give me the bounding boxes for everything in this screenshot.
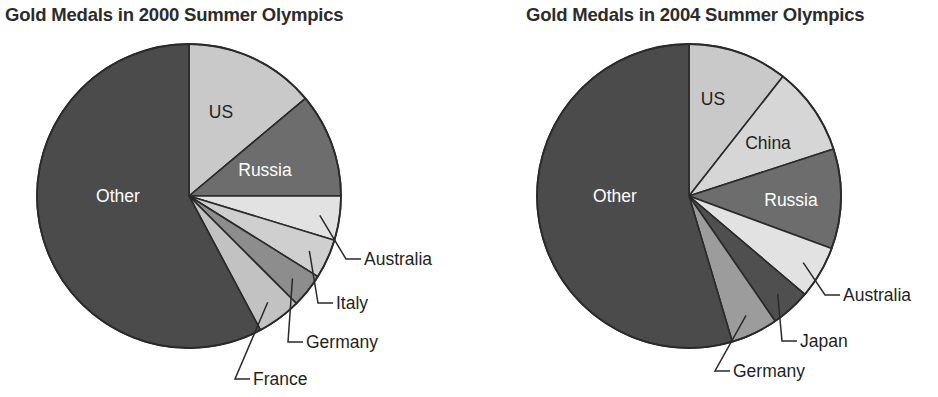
slice-label-us: US — [701, 89, 725, 109]
callout-label-australia: Australia — [843, 285, 911, 305]
slice-label-us: US — [209, 102, 233, 122]
callout-label-france: France — [253, 369, 307, 389]
slice-label-russia: Russia — [764, 190, 818, 210]
callout-label-australia: Australia — [364, 249, 432, 269]
callout-label-italy: Italy — [336, 293, 368, 313]
callout-label-germany: Germany — [733, 361, 805, 381]
callout-label-germany: Germany — [306, 332, 378, 352]
pie-chart-2000: USRussiaOtherAustraliaItalyGermanyFrance — [0, 0, 469, 397]
slice-label-other: Other — [96, 186, 140, 206]
figure-gold-medals-2000: Gold Medals in 2000 Summer Olympics USRu… — [0, 0, 469, 397]
slice-label-china: China — [745, 133, 791, 153]
figure-gold-medals-2004: Gold Medals in 2004 Summer Olympics USCh… — [469, 0, 938, 397]
slice-label-russia: Russia — [238, 160, 292, 180]
pie-chart-2004: USChinaRussiaOtherAustraliaJapanGermany — [469, 0, 938, 397]
callout-label-japan: Japan — [800, 331, 848, 351]
slice-label-other: Other — [593, 186, 637, 206]
